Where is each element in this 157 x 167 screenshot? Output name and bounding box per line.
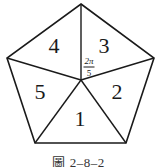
radius-left xyxy=(7,58,81,80)
angle-denominator: 5 xyxy=(87,68,92,78)
region-label-2: 2 xyxy=(112,81,123,103)
region-label-3: 3 xyxy=(99,35,110,57)
pentagon-drawing xyxy=(0,0,157,167)
central-angle-label: 2π 5 xyxy=(83,57,94,78)
angle-numerator: 2π xyxy=(83,57,94,68)
region-label-1: 1 xyxy=(75,108,86,130)
region-label-4: 4 xyxy=(49,35,60,57)
figure-caption: 圖 2–8–2 xyxy=(0,152,157,167)
pentagon-diagram: 1 2 3 4 5 2π 5 圖 2–8–2 xyxy=(0,0,157,167)
region-label-5: 5 xyxy=(35,81,46,103)
